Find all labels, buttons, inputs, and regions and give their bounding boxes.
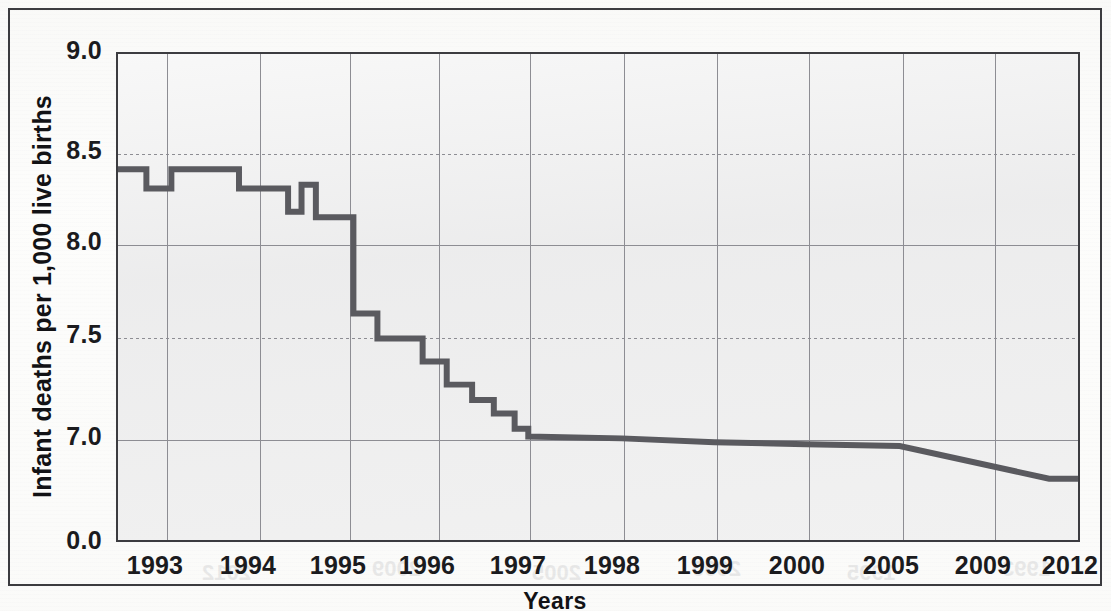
figure-frame: 0.07.07.58.08.59.0 199319941995199619971… <box>8 8 1102 586</box>
y-axis-tick-labels: 0.07.07.58.08.59.0 <box>10 10 1111 611</box>
x-axis-title: Years <box>10 588 1100 611</box>
x-tick-label-2012: 2012 <box>1010 551 1111 580</box>
y-axis-title: Infant deaths per 1,000 live births <box>28 37 57 557</box>
